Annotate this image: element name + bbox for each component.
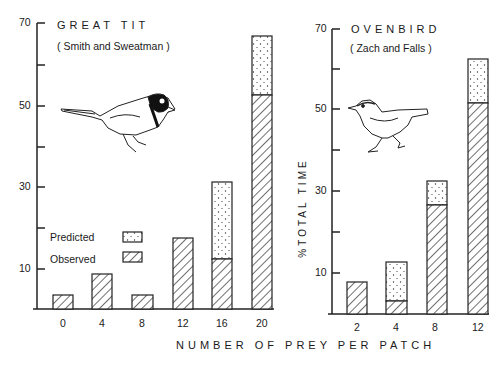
left-xtick-4: 4 <box>99 318 105 329</box>
bar-8-observed <box>132 295 153 309</box>
bar-2-observed <box>347 282 367 314</box>
left-y-ticks <box>33 23 45 309</box>
ovenbird-chart <box>328 29 489 314</box>
left-xtick-16: 16 <box>216 318 228 329</box>
x-axis-label: NUMBER OF PREY PER PATCH <box>176 340 435 351</box>
left-xtick-8: 8 <box>139 318 145 329</box>
left-ytick-50: 50 <box>19 100 31 111</box>
great-tit-bird-illustration <box>61 94 175 152</box>
right-chart-title: OVENBIRD <box>351 24 440 35</box>
right-xtick-2: 2 <box>354 322 360 333</box>
bar-12-predicted <box>468 59 488 103</box>
right-ytick-30: 30 <box>315 185 327 196</box>
right-xtick-8: 8 <box>432 322 438 333</box>
left-xtick-12: 12 <box>177 318 189 329</box>
figure <box>0 0 504 366</box>
bar-16-predicted <box>212 182 232 259</box>
legend-observed-swatch <box>123 252 142 262</box>
right-y-ticks <box>328 29 340 314</box>
bar-8-observed <box>427 205 447 314</box>
great-tit-chart <box>33 23 274 309</box>
legend-predicted-swatch <box>123 232 142 242</box>
legend-predicted-label: Predicted <box>50 232 94 243</box>
right-ytick-10: 10 <box>315 267 327 278</box>
ovenbird-illustration <box>348 100 428 152</box>
right-y-axis-label: %TOTAL TIME <box>298 153 308 263</box>
bar-20-observed <box>252 95 272 309</box>
right-chart-subtitle: ( Zach and Falls ) <box>350 43 432 54</box>
bar-8-predicted <box>427 181 447 205</box>
left-ytick-30: 30 <box>19 181 31 192</box>
bar-4-predicted <box>386 262 407 301</box>
right-xtick-12: 12 <box>472 322 484 333</box>
bar-0-observed <box>53 295 73 309</box>
bar-16-observed <box>212 259 232 309</box>
left-xtick-20: 20 <box>256 318 268 329</box>
right-ytick-70: 70 <box>315 23 327 34</box>
left-ytick-70: 70 <box>19 17 31 28</box>
bar-12-observed <box>468 103 488 314</box>
left-chart-title: GREAT TIT <box>57 20 149 31</box>
right-ytick-50: 50 <box>315 103 327 114</box>
left-chart-subtitle: ( Smith and Sweatman ) <box>57 41 170 52</box>
left-xtick-0: 0 <box>60 318 66 329</box>
bar-4-observed <box>92 274 112 309</box>
right-xtick-4: 4 <box>393 322 399 333</box>
bar-12-observed <box>173 238 193 309</box>
left-ytick-10: 10 <box>19 263 31 274</box>
bar-20-predicted <box>252 36 272 95</box>
bar-4-observed <box>386 301 407 314</box>
legend-observed-label: Observed <box>50 254 96 265</box>
